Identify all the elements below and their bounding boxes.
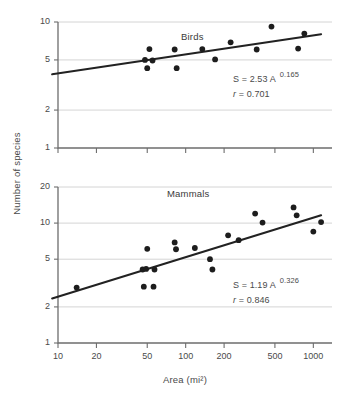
plot-frame — [58, 187, 332, 343]
y-tick-label: 10 — [28, 16, 50, 26]
x-tick-label: 100 — [171, 351, 201, 361]
data-point — [144, 246, 150, 252]
data-point — [310, 229, 316, 235]
y-tick-label: 5 — [28, 253, 50, 263]
mammals-correlation-symbol: r — [233, 295, 236, 305]
x-tick-label: 200 — [209, 351, 239, 361]
data-point — [254, 47, 260, 53]
x-axis-title: Area (mi²) — [120, 374, 250, 385]
data-point — [174, 65, 180, 71]
x-tick-label: 50 — [132, 351, 162, 361]
x-tick-label: 10 — [43, 351, 73, 361]
mammals-panel-title: Mammals — [167, 188, 210, 199]
data-point — [152, 267, 158, 273]
birds-plot-canvas — [0, 0, 345, 170]
data-point — [295, 46, 301, 52]
data-point — [199, 46, 205, 52]
data-point — [260, 220, 266, 226]
data-point — [291, 205, 297, 211]
mammals-equation-annotation: S = 1.19 A0.326 — [233, 280, 295, 290]
y-tick-label: 1 — [28, 337, 50, 347]
data-point — [143, 266, 149, 272]
x-tick-label: 500 — [260, 351, 290, 361]
data-point — [252, 211, 258, 217]
data-point — [192, 245, 198, 251]
data-point — [294, 212, 300, 218]
birds-correlation-annotation: r = 0.701 — [233, 89, 270, 99]
data-point — [74, 285, 80, 291]
y-tick-label: 2 — [28, 301, 50, 311]
birds-equation-text: S = 2.53 A — [233, 74, 276, 84]
birds-equation-exponent: 0.165 — [280, 70, 299, 79]
data-point — [207, 256, 213, 262]
birds-correlation-value: = 0.701 — [239, 89, 270, 99]
data-point — [318, 219, 324, 225]
y-tick-label: 20 — [28, 181, 50, 191]
data-point — [236, 237, 242, 243]
y-tick-label: 10 — [28, 217, 50, 227]
birds-panel-title: Birds — [181, 31, 204, 42]
x-tick-label: 1000 — [298, 351, 328, 361]
data-point — [151, 284, 157, 290]
data-point — [301, 31, 307, 37]
data-point — [150, 58, 156, 64]
data-point — [172, 240, 178, 246]
mammals-correlation-annotation: r = 0.846 — [233, 295, 270, 305]
data-point — [173, 246, 179, 252]
y-tick-label: 5 — [28, 54, 50, 64]
y-tick-label: 1 — [28, 142, 50, 152]
species-area-figure: Number of species Area (mi²) Birds S = 2… — [0, 0, 345, 399]
y-tick-label: 2 — [28, 104, 50, 114]
x-tick-label: 20 — [81, 351, 111, 361]
mammals-equation-text: S = 1.19 A — [233, 280, 276, 290]
data-point — [269, 24, 275, 30]
mammals-plot-canvas — [0, 180, 345, 365]
mammals-equation-exponent: 0.326 — [280, 276, 299, 285]
data-point — [141, 284, 147, 290]
mammals-correlation-value: = 0.846 — [239, 295, 270, 305]
data-point — [210, 267, 216, 273]
data-point — [212, 56, 218, 62]
data-point — [144, 65, 150, 71]
birds-correlation-symbol: r — [233, 89, 236, 99]
data-point — [142, 57, 148, 63]
chart-panel-mammals: Mammals S = 1.19 A0.326 r = 0.846 125102… — [0, 180, 345, 365]
birds-equation-annotation: S = 2.53 A0.165 — [233, 74, 295, 84]
data-point — [172, 47, 178, 53]
chart-panel-birds: Birds S = 2.53 A0.165 r = 0.701 12510 — [0, 0, 345, 170]
data-point — [225, 232, 231, 238]
data-point — [228, 39, 234, 45]
data-point — [147, 46, 153, 52]
